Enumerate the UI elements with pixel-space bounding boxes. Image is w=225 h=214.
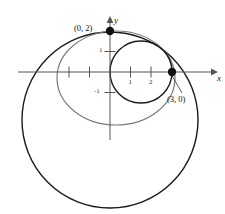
point-3-0-marker — [168, 68, 176, 76]
x-tick-label-2: 2 — [149, 79, 153, 86]
x-tick-label-1: 1 — [129, 79, 133, 86]
y-axis-arrow-icon — [107, 16, 114, 23]
x-axis-label: x — [217, 74, 221, 83]
figure-canvas: (0, 2) (3, 0) x y 1 -1 1 2 — [0, 0, 225, 214]
point-3-0-label: (3, 0) — [167, 95, 185, 104]
point-0-2-label: (0, 2) — [74, 24, 92, 33]
y-tick-label-1: 1 — [99, 47, 103, 54]
y-tick-label--1: -1 — [94, 88, 100, 95]
point-0-2-marker — [106, 27, 114, 35]
math-plot — [0, 0, 225, 214]
y-axis-label: y — [114, 16, 118, 25]
